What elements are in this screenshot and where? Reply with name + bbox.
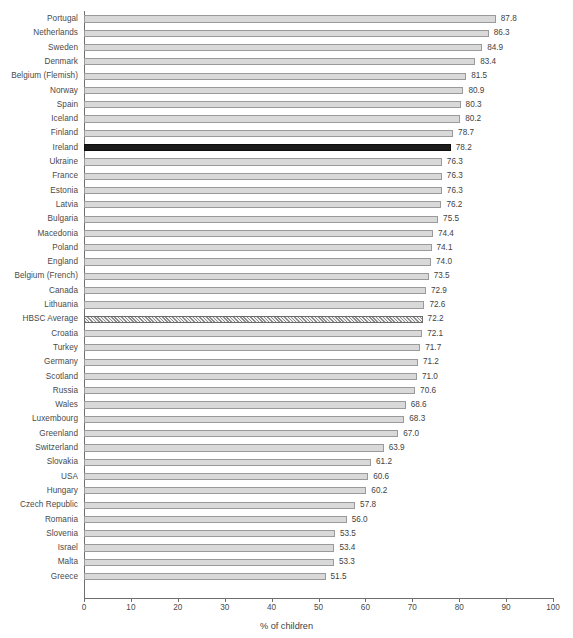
category-label: France — [0, 169, 78, 183]
bar-track: 70.6 — [84, 384, 553, 398]
bar-track: 76.2 — [84, 198, 553, 212]
x-axis-tick — [131, 598, 132, 602]
bar — [84, 559, 334, 566]
category-label: Greenland — [0, 427, 78, 441]
bar-value-label: 53.4 — [339, 541, 355, 555]
bar — [84, 344, 420, 351]
category-label: Croatia — [0, 327, 78, 341]
bar — [84, 330, 422, 337]
bar — [84, 502, 355, 509]
bar — [84, 516, 347, 523]
bar-row: Turkey71.7 — [0, 341, 573, 355]
bar — [84, 573, 326, 580]
bar-row: Iceland80.2 — [0, 112, 573, 126]
bar-value-label: 73.5 — [434, 269, 450, 283]
bar-row: Switzerland63.9 — [0, 441, 573, 455]
category-label: Wales — [0, 398, 78, 412]
category-label: Poland — [0, 241, 78, 255]
bar-track: 76.3 — [84, 184, 553, 198]
bar — [84, 44, 482, 51]
category-label: Greece — [0, 570, 78, 584]
bar-track: 63.9 — [84, 441, 553, 455]
bar-track: 71.2 — [84, 355, 553, 369]
bar-track: 80.2 — [84, 112, 553, 126]
category-label: Iceland — [0, 112, 78, 126]
bar-value-label: 75.5 — [443, 212, 459, 226]
category-label: Finland — [0, 126, 78, 140]
bar-row: Israel53.4 — [0, 541, 573, 555]
x-axis-tick — [365, 598, 366, 602]
bar-value-label: 80.3 — [466, 98, 482, 112]
bar — [84, 244, 432, 251]
bar-track: 78.2 — [84, 141, 553, 155]
bar-row: Ukraine76.3 — [0, 155, 573, 169]
bar-track: 60.6 — [84, 470, 553, 484]
bar-row: Belgium (French)73.5 — [0, 269, 573, 283]
bar-track: 56.0 — [84, 513, 553, 527]
x-axis-tick — [459, 598, 460, 602]
bar-track: 81.5 — [84, 69, 553, 83]
bar — [84, 544, 334, 551]
bar-track: 80.3 — [84, 98, 553, 112]
bar-value-label: 56.0 — [352, 513, 368, 527]
x-axis-tick-label: 30 — [210, 603, 240, 612]
category-label: Switzerland — [0, 441, 78, 455]
category-label: Netherlands — [0, 26, 78, 40]
x-axis-tick-label: 60 — [350, 603, 380, 612]
category-label: Sweden — [0, 41, 78, 55]
bar-value-label: 76.3 — [447, 184, 463, 198]
bar-row: Netherlands86.3 — [0, 26, 573, 40]
bar-row: Scotland71.0 — [0, 370, 573, 384]
category-label: Ireland — [0, 141, 78, 155]
bar-row: Ireland78.2 — [0, 141, 573, 155]
bar-row: Sweden84.9 — [0, 41, 573, 55]
bar-value-label: 68.6 — [411, 398, 427, 412]
bar — [84, 530, 335, 537]
bar — [84, 316, 423, 323]
bar-track: 61.2 — [84, 455, 553, 469]
bar-value-label: 72.9 — [431, 284, 447, 298]
category-label: Slovakia — [0, 455, 78, 469]
bar-value-label: 87.8 — [501, 12, 517, 26]
bar — [84, 301, 424, 308]
bar-value-label: 71.0 — [422, 370, 438, 384]
bar-value-label: 51.5 — [331, 570, 347, 584]
bar-row: Spain80.3 — [0, 98, 573, 112]
bar-track: 53.4 — [84, 541, 553, 555]
category-label: Macedonia — [0, 227, 78, 241]
bar-row: Canada72.9 — [0, 284, 573, 298]
bar — [84, 115, 460, 122]
bar — [84, 273, 429, 280]
x-axis-tick-label: 40 — [257, 603, 287, 612]
bar-value-label: 74.0 — [436, 255, 452, 269]
bar-row: France76.3 — [0, 169, 573, 183]
bar-track: 72.6 — [84, 298, 553, 312]
bar-row: Slovakia61.2 — [0, 455, 573, 469]
x-axis-tick — [506, 598, 507, 602]
bar-value-label: 70.6 — [420, 384, 436, 398]
x-axis-tick — [225, 598, 226, 602]
bar-row: Luxembourg68.3 — [0, 412, 573, 426]
bar — [84, 187, 442, 194]
bar-track: 72.1 — [84, 327, 553, 341]
category-label: Portugal — [0, 12, 78, 26]
bar-value-label: 86.3 — [494, 26, 510, 40]
bar-value-label: 74.1 — [437, 241, 453, 255]
category-label: Hungary — [0, 484, 78, 498]
bar-track: 71.0 — [84, 370, 553, 384]
bar-chart: Portugal87.8Netherlands86.3Sweden84.9Den… — [0, 0, 573, 638]
bar-track: 57.8 — [84, 498, 553, 512]
bar-row: Belgium (Flemish)81.5 — [0, 69, 573, 83]
bar-value-label: 76.3 — [447, 169, 463, 183]
x-axis-tick-label: 0 — [69, 603, 99, 612]
bar-row: Finland78.7 — [0, 126, 573, 140]
category-label: Turkey — [0, 341, 78, 355]
bar — [84, 287, 426, 294]
bar-value-label: 53.3 — [339, 555, 355, 569]
bar — [84, 258, 431, 265]
bar-track: 71.7 — [84, 341, 553, 355]
bar-track: 75.5 — [84, 212, 553, 226]
bar-row: Slovenia53.5 — [0, 527, 573, 541]
category-label: Malta — [0, 555, 78, 569]
bar-row: Greenland67.0 — [0, 427, 573, 441]
